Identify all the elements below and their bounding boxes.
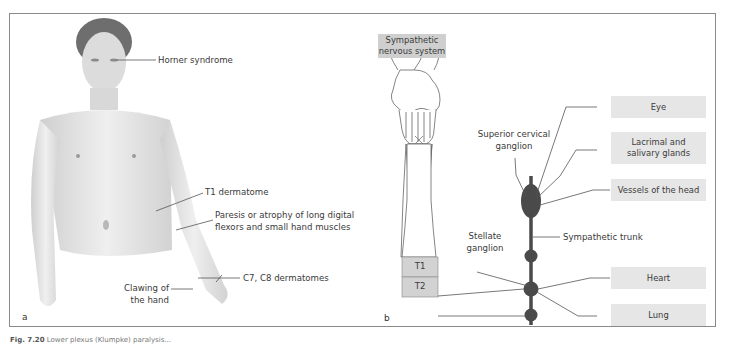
target-lacrimal-line1: Lacrimal and bbox=[631, 137, 685, 148]
segment-t1: T1 bbox=[402, 261, 438, 272]
target-lacrimal-line2: salivary glands bbox=[627, 148, 690, 159]
target-lacrimal-salivary: Lacrimal and salivary glands bbox=[611, 132, 706, 164]
label-horner-syndrome: Horner syndrome bbox=[158, 55, 233, 66]
target-eye: Eye bbox=[611, 96, 706, 118]
label-paresis-line2: flexors and small hand muscles bbox=[215, 222, 350, 233]
label-t1-dermatome: T1 dermatome bbox=[205, 187, 269, 198]
sympathetic-nervous-system-box: Sympathetic nervous system bbox=[378, 34, 446, 58]
header-line1: Sympathetic bbox=[386, 35, 439, 46]
label-superior-cervical-line2: ganglion bbox=[474, 141, 554, 152]
figure-caption: Fig. 7.20 Lower plexus (Klumpke) paralys… bbox=[10, 336, 171, 344]
target-lung: Lung bbox=[611, 304, 706, 326]
caption-text: Lower plexus (Klumpke) paralysis... bbox=[47, 336, 171, 344]
label-c7-c8-dermatomes: C7, C8 dermatomes bbox=[243, 273, 329, 284]
target-heart-label: Heart bbox=[647, 273, 670, 284]
target-heart: Heart bbox=[611, 267, 706, 289]
label-stellate-line2: ganglion bbox=[460, 243, 510, 254]
target-vessels-label: Vessels of the head bbox=[618, 185, 700, 196]
target-eye-label: Eye bbox=[651, 102, 666, 113]
label-clawing-line1: Clawing of bbox=[110, 283, 169, 294]
label-sympathetic-trunk: Sympathetic trunk bbox=[563, 232, 643, 243]
label-paresis-line1: Paresis or atrophy of long digital bbox=[215, 210, 354, 221]
label-stellate-line1: Stellate bbox=[460, 231, 510, 242]
panel-a-letter: a bbox=[22, 312, 28, 322]
caption-prefix: Fig. 7.20 bbox=[10, 336, 45, 344]
label-superior-cervical-line1: Superior cervical bbox=[474, 129, 554, 140]
segment-t2: T2 bbox=[402, 281, 438, 292]
panel-b-letter: b bbox=[384, 313, 390, 323]
target-vessels-of-head: Vessels of the head bbox=[611, 179, 706, 201]
target-lung-label: Lung bbox=[648, 310, 668, 321]
label-clawing-line2: the hand bbox=[110, 295, 169, 306]
header-line2: nervous system bbox=[379, 46, 446, 57]
